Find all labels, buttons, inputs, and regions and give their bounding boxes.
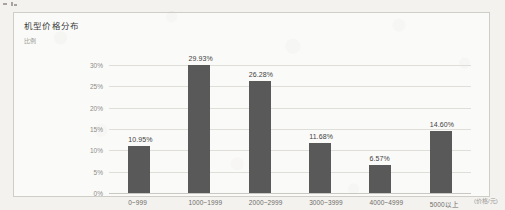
y-axis-tick-label: 30% bbox=[90, 62, 103, 69]
x-axis-tick-label: 5000以上 bbox=[430, 199, 459, 209]
x-axis-unit-label: (价格/元) bbox=[474, 196, 498, 205]
x-axis-tick-label: 1000~1999 bbox=[188, 199, 222, 206]
chart-container: 机型价格分布 比例 0%5%10%15%20%25%30% 10.95%0~99… bbox=[13, 12, 490, 197]
bar-group[interactable]: 29.93%1000~1999 bbox=[169, 65, 229, 193]
y-axis-title: 比例 bbox=[24, 36, 36, 45]
x-axis-tick-label: 4000~4999 bbox=[369, 199, 403, 206]
y-axis-tick-label: 0% bbox=[94, 190, 103, 197]
plot-area: 0%5%10%15%20%25%30% 10.95%0~99929.93%100… bbox=[109, 65, 471, 193]
bar[interactable]: 26.28%2000~2999 bbox=[249, 81, 271, 193]
bars: 10.95%0~99929.93%1000~199926.28%2000~299… bbox=[109, 65, 471, 193]
y-axis-tick-label: 15% bbox=[90, 126, 103, 133]
bar-group[interactable]: 26.28%2000~2999 bbox=[230, 65, 290, 193]
scan-speck bbox=[3, 3, 7, 5]
bar-group[interactable]: 11.68%3000~3999 bbox=[290, 65, 350, 193]
bar-value-label: 6.57% bbox=[369, 155, 389, 162]
bar-value-label: 26.28% bbox=[249, 71, 273, 78]
bar[interactable]: 6.57%4000~4999 bbox=[369, 165, 391, 193]
x-axis-tick-label: 0~999 bbox=[128, 199, 147, 206]
bar-group[interactable]: 14.60%5000以上 bbox=[411, 65, 471, 193]
bar-group[interactable]: 6.57%4000~4999 bbox=[350, 65, 410, 193]
x-axis-tick-label: 3000~3999 bbox=[309, 199, 343, 206]
bar-value-label: 11.68% bbox=[309, 133, 333, 140]
bar[interactable]: 11.68%3000~3999 bbox=[309, 143, 331, 193]
gridline: 0% bbox=[109, 193, 471, 194]
bar-value-label: 10.95% bbox=[128, 136, 152, 143]
bar[interactable]: 29.93%1000~1999 bbox=[188, 65, 210, 193]
x-axis-tick-label: 2000~2999 bbox=[249, 199, 283, 206]
y-axis-tick-label: 5% bbox=[94, 168, 103, 175]
bar-value-label: 14.60% bbox=[430, 121, 454, 128]
y-axis-tick-label: 10% bbox=[90, 147, 103, 154]
bar[interactable]: 14.60%5000以上 bbox=[430, 131, 452, 193]
scan-speck bbox=[14, 4, 17, 6]
bar-group[interactable]: 10.95%0~999 bbox=[109, 65, 169, 193]
bar[interactable]: 10.95%0~999 bbox=[128, 146, 150, 193]
scan-speck bbox=[11, 2, 13, 6]
y-axis-tick-label: 20% bbox=[90, 104, 103, 111]
bar-value-label: 29.93% bbox=[188, 55, 212, 62]
chart-title: 机型价格分布 bbox=[24, 19, 79, 31]
y-axis-tick-label: 25% bbox=[90, 83, 103, 90]
